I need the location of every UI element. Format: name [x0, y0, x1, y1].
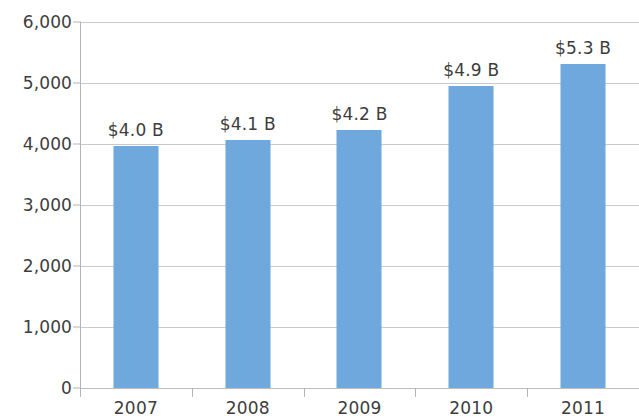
y-axis-tick: [73, 144, 81, 145]
bar[interactable]: [113, 146, 158, 388]
bar-group: $4.9 B2010: [415, 0, 527, 420]
y-axis-tick-label: 0: [0, 378, 72, 398]
y-axis-tick-label: 5,000: [0, 73, 72, 93]
bar-value-label: $4.2 B: [331, 104, 387, 124]
y-axis-tick-labels: 01,0002,0003,0004,0005,0006,000: [0, 0, 72, 420]
bar-chart: 01,0002,0003,0004,0005,0006,000 $4.0 B20…: [0, 0, 639, 420]
bar-group: $4.2 B2009: [304, 0, 416, 420]
bar-value-label: $4.0 B: [108, 120, 164, 140]
y-axis-tick: [73, 266, 81, 267]
y-axis-tick-label: 4,000: [0, 134, 72, 154]
x-axis-tick: [527, 388, 528, 397]
bar-group: $4.0 B2007: [80, 0, 192, 420]
bar-value-label: $5.3 B: [555, 38, 611, 58]
x-axis-category-label: 2007: [114, 398, 158, 418]
y-axis-tick-label: 1,000: [0, 317, 72, 337]
plot-area: $4.0 B2007$4.1 B2008$4.2 B2009$4.9 B2010…: [80, 0, 639, 420]
bar[interactable]: [337, 130, 382, 388]
bar[interactable]: [225, 140, 270, 388]
y-axis-tick: [73, 205, 81, 206]
x-axis-category-label: 2009: [337, 398, 381, 418]
x-axis-category-label: 2011: [561, 398, 605, 418]
y-axis-tick-label: 2,000: [0, 256, 72, 276]
x-axis-tick: [415, 388, 416, 397]
bar[interactable]: [449, 86, 494, 388]
x-axis-category-label: 2008: [226, 398, 270, 418]
bar[interactable]: [561, 64, 606, 388]
x-axis-tick: [304, 388, 305, 397]
y-axis-tick-label: 6,000: [0, 12, 72, 32]
x-axis-tick: [80, 388, 81, 397]
bar-value-label: $4.9 B: [443, 60, 499, 80]
y-axis-tick: [73, 327, 81, 328]
y-axis-tick: [73, 22, 81, 23]
bar-group: $5.3 B2011: [527, 0, 639, 420]
y-axis-tick: [73, 83, 81, 84]
bar-value-label: $4.1 B: [220, 114, 276, 134]
y-axis-tick-label: 3,000: [0, 195, 72, 215]
bar-group: $4.1 B2008: [192, 0, 304, 420]
x-axis-tick: [192, 388, 193, 397]
x-axis-category-label: 2010: [449, 398, 493, 418]
